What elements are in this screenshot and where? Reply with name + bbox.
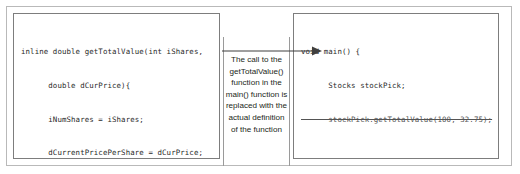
- inline-function-figure: inline double getTotalValue(int iShares,…: [0, 0, 520, 174]
- code-line: void main() {: [301, 46, 492, 57]
- code-line: inline double getTotalValue(int iShares,: [21, 46, 203, 57]
- code-line: [301, 147, 492, 158]
- caption-text: The call to the getTotalValue() function…: [225, 54, 288, 135]
- code-line: Stocks stockPick;: [301, 80, 492, 91]
- code-line: dCurrentPricePerShare = dCurPrice;: [21, 147, 203, 158]
- main-function-code: void main() { Stocks stockPick; stockPic…: [301, 24, 492, 174]
- inline-function-definition-code-box: inline double getTotalValue(int iShares,…: [13, 13, 220, 159]
- code-line: double dCurPrice){: [21, 80, 203, 91]
- code-line: iNumShares = iShares;: [21, 114, 203, 125]
- main-function-code-box: void main() { Stocks stockPick; stockPic…: [293, 13, 499, 159]
- inline-function-definition-code: inline double getTotalValue(int iShares,…: [21, 24, 203, 174]
- replacement-arrow-icon: [220, 44, 324, 58]
- code-line-struck: stockPick.getTotalValue(100, 32.75);: [301, 114, 492, 125]
